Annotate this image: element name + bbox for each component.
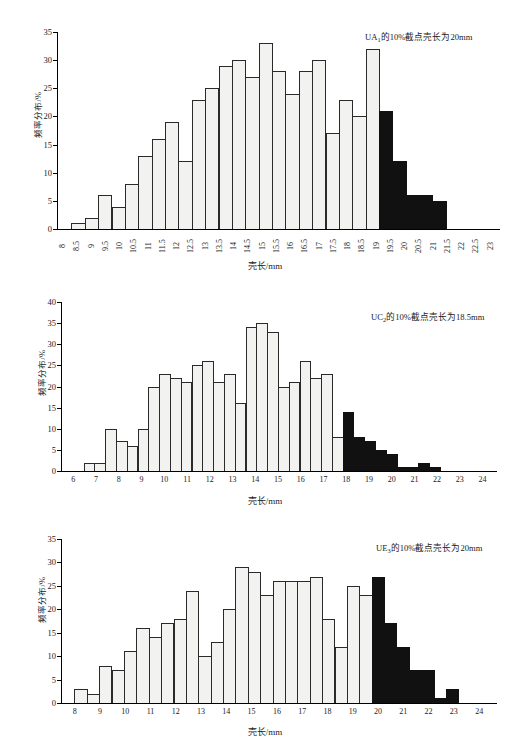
- bar-ue3-14: [235, 567, 248, 703]
- y-tick-labels-ua1: 05101520253035: [30, 0, 52, 275]
- x-tick-ua1-3: 9.5: [101, 233, 115, 259]
- x-tick-ua1-30: 23: [486, 233, 500, 259]
- annotation-suffix-ua1: 的10%截点壳长为20mm: [381, 32, 473, 42]
- x-tick-ua1-15: 15.5: [272, 233, 286, 259]
- y-tick-uc2-35: 35: [48, 318, 57, 328]
- bar-ua1-27: [419, 195, 433, 229]
- bar-ua1-6: [138, 156, 152, 229]
- y-tickmark-uc2-5: [57, 450, 61, 451]
- bar-ua1-10: [192, 100, 206, 229]
- y-tick-ua1-35: 35: [44, 27, 53, 37]
- y-tickmark-ua1-30: [53, 60, 57, 61]
- x-tick-ua1-7: 11.5: [158, 233, 172, 259]
- x-tick-ua1-22: 19: [372, 233, 386, 259]
- y-tick-uc2-15: 15: [48, 403, 57, 413]
- x-tick-uc2-12: 18: [335, 475, 358, 484]
- y-tick-ue3-10: 10: [48, 651, 57, 661]
- y-tickmark-ua1-10: [53, 173, 57, 174]
- y-tickmark-uc2-15: [57, 408, 61, 409]
- x-tick-ua1-14: 15: [258, 233, 272, 259]
- x-tick-uc2-4: 10: [153, 475, 176, 484]
- bar-ue3-21: [322, 619, 335, 703]
- x-tick-ua1-11: 13.5: [215, 233, 229, 259]
- x-tick-ua1-2: 9: [87, 233, 101, 259]
- x-tick-labels-ua1: 88.599.51010.51111.51212.51313.51414.515…: [58, 233, 500, 259]
- y-tick-labels-uc2: 0510152025303540: [34, 283, 56, 515]
- y-tick-uc2-5: 5: [52, 445, 56, 455]
- x-tick-ua1-29: 22.5: [471, 233, 485, 259]
- x-tick-ua1-27: 21.5: [443, 233, 457, 259]
- y-tickmark-ua1-35: [53, 32, 57, 33]
- x-tick-ua1-10: 13: [201, 233, 215, 259]
- bar-ua1-7: [152, 139, 166, 229]
- bar-ue3-18: [285, 581, 298, 703]
- x-tick-uc2-11: 17: [312, 475, 335, 484]
- x-tick-uc2-7: 13: [221, 475, 244, 484]
- x-tick-ua1-25: 20.5: [414, 233, 428, 259]
- x-tick-ua1-5: 10.5: [129, 233, 143, 259]
- x-tick-uc2-5: 11: [176, 475, 199, 484]
- y-tick-ua1-20: 20: [44, 111, 53, 121]
- x-tick-ue3-7: 15: [239, 707, 264, 716]
- bar-ua1-19: [312, 60, 326, 229]
- bar-ua1-25: [392, 161, 406, 229]
- bar-ue3-27: [397, 647, 410, 703]
- y-tickmark-ua1-15: [53, 145, 57, 146]
- x-tick-uc2-9: 15: [267, 475, 290, 484]
- x-tick-ue3-14: 22: [416, 707, 441, 716]
- bar-ue3-15: [248, 572, 261, 703]
- x-tick-uc2-17: 23: [448, 475, 471, 484]
- bar-ua1-18: [299, 71, 313, 229]
- x-tick-uc2-3: 9: [130, 475, 153, 484]
- bar-ua1-3: [98, 195, 112, 229]
- x-axis-line-ua1: [57, 229, 500, 230]
- x-tick-ue3-3: 11: [138, 707, 163, 716]
- bar-ue3-6: [136, 628, 149, 703]
- x-tick-ue3-8: 16: [264, 707, 289, 716]
- bar-ue3-25: [372, 577, 385, 704]
- x-tick-ua1-8: 12: [172, 233, 186, 259]
- bar-ua1-22: [352, 116, 366, 229]
- chart-panel-ua1: 频率分布/% 05101520253035 88.599.51010.51111…: [0, 0, 530, 275]
- y-tick-ue3-25: 25: [48, 581, 57, 591]
- annotation-sub-uc2: 2: [383, 316, 386, 323]
- y-tickmark-ue3-10: [57, 656, 61, 657]
- bar-ua1-2: [85, 218, 99, 229]
- bar-ua1-23: [366, 49, 380, 229]
- bar-ue3-2: [87, 694, 100, 703]
- bar-ue3-29: [421, 670, 434, 703]
- bar-ue3-1: [74, 689, 87, 703]
- annotation-suffix-ue3: 的10%截点壳长为20mm: [391, 543, 483, 553]
- bar-ue3-22: [335, 647, 348, 703]
- y-tick-uc2-25: 25: [48, 360, 57, 370]
- annotation-prefix-uc2: UC: [371, 312, 383, 322]
- x-tick-ue3-12: 20: [365, 707, 390, 716]
- bar-ua1-11: [205, 88, 219, 229]
- x-tick-ua1-19: 17.5: [329, 233, 343, 259]
- x-tick-ue3-13: 21: [391, 707, 416, 716]
- y-tick-ua1-5: 5: [48, 196, 52, 206]
- x-tick-uc2-6: 12: [198, 475, 221, 484]
- bar-ue3-28: [409, 670, 422, 703]
- x-tick-uc2-10: 16: [289, 475, 312, 484]
- bar-ue3-30: [434, 698, 447, 703]
- x-tick-ue3-10: 18: [315, 707, 340, 716]
- bar-ue3-20: [310, 577, 323, 704]
- y-tick-ua1-10: 10: [44, 168, 53, 178]
- y-tickmark-uc2-25: [57, 365, 61, 366]
- bar-ua1-14: [245, 77, 259, 229]
- x-tick-uc2-13: 19: [358, 475, 381, 484]
- annotation-suffix-uc2: 的10%截点壳长为18.5mm: [386, 312, 484, 322]
- y-tick-uc2-0: 0: [52, 466, 56, 476]
- y-tickmark-ue3-0: [57, 703, 61, 704]
- bar-ue3-12: [211, 642, 224, 703]
- x-tick-uc2-8: 14: [244, 475, 267, 484]
- annotation-uc2: UC2的10%截点壳长为18.5mm: [371, 310, 484, 322]
- bar-ue3-3: [99, 666, 112, 703]
- x-tick-uc2-14: 20: [380, 475, 403, 484]
- bar-ue3-9: [174, 619, 187, 703]
- x-tick-ue3-9: 17: [290, 707, 315, 716]
- bar-series-uc2: [62, 302, 483, 471]
- y-tick-ue3-20: 20: [48, 604, 57, 614]
- bar-ue3-7: [149, 637, 162, 703]
